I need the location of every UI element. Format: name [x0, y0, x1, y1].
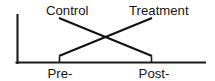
- chart-figure: Control Treatment Pre- Post-: [0, 0, 215, 81]
- series-label-treatment: Treatment: [129, 3, 189, 18]
- crossover-line-chart: Control Treatment Pre- Post-: [0, 0, 215, 81]
- series-label-control: Control: [46, 3, 89, 18]
- x-tick-label-pre: Pre-: [48, 66, 73, 81]
- x-tick-label-post: Post-: [139, 66, 170, 81]
